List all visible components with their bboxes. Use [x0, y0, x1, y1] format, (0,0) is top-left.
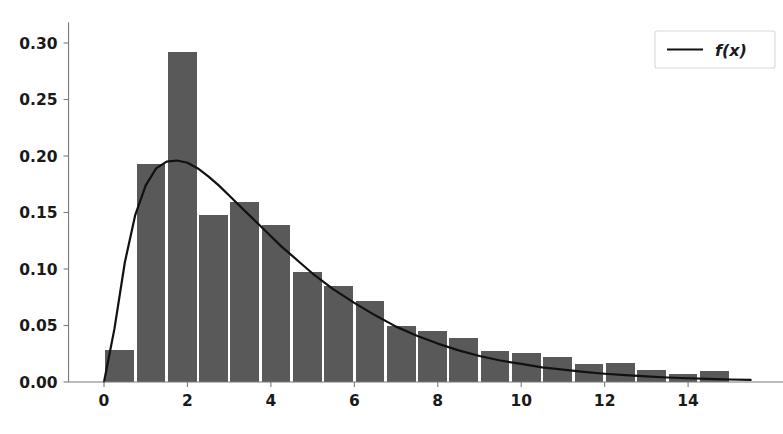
x-tick-label: 2 — [182, 392, 193, 410]
plot-area: 02468101214 0.000.050.100.150.200.250.30… — [0, 0, 783, 434]
histogram-with-pdf-chart: 02468101214 0.000.050.100.150.200.250.30… — [0, 0, 783, 434]
x-tick-label: 4 — [265, 392, 276, 410]
y-tick-label: 0.25 — [19, 91, 57, 109]
histogram-bar — [168, 52, 197, 382]
x-tick-label: 14 — [677, 392, 699, 410]
histogram-bar — [606, 363, 635, 382]
histogram-bar — [449, 338, 478, 382]
histogram-bar — [199, 215, 228, 382]
x-tick-label: 8 — [432, 392, 443, 410]
x-tick-label: 6 — [349, 392, 360, 410]
histogram-bar — [262, 225, 291, 382]
y-tick-label: 0.20 — [19, 148, 57, 166]
y-tick-label: 0.05 — [19, 317, 57, 335]
x-tick-label: 10 — [510, 392, 532, 410]
y-tick-label: 0.00 — [19, 374, 57, 392]
chart-figure: 02468101214 0.000.050.100.150.200.250.30… — [0, 0, 783, 434]
legend[interactable]: f(x) — [655, 31, 775, 68]
legend-label: f(x) — [715, 41, 747, 60]
y-tick-label: 0.15 — [19, 204, 57, 222]
y-tick-label: 0.30 — [19, 35, 57, 53]
histogram-bar — [230, 202, 259, 382]
y-tick-label: 0.10 — [19, 261, 57, 279]
x-tick-label: 0 — [99, 392, 110, 410]
histogram-bar — [481, 351, 510, 382]
histogram-bar — [293, 272, 322, 382]
x-tick-label: 12 — [594, 392, 616, 410]
